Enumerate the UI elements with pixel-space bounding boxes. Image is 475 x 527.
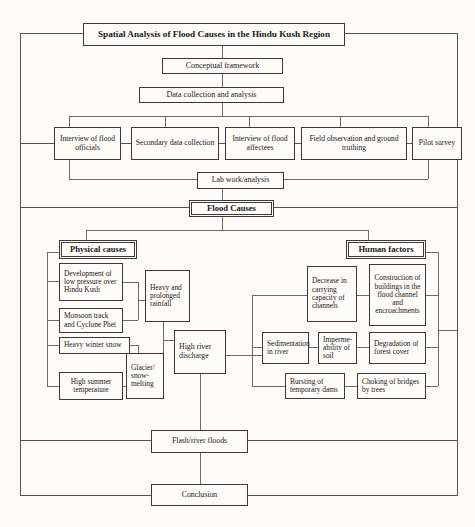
connector-pilot-down [428,160,429,179]
frame-right-border [457,33,458,495]
connector-left-spine-to-sedimentation [252,347,262,348]
connector-monsoon-to-rainfall [123,320,138,321]
connector-human-to-construction [426,295,438,296]
node-impermeability: Imperme- ability of soil [318,332,357,364]
node-high-discharge: High river discharge [174,330,226,374]
connector-data-to-busbar [222,103,223,116]
node-glacier-melting: Glacier/ snow- melting [126,353,164,399]
connector-rainfall-down [163,322,164,340]
connector-left-spine-to-capacity [252,295,307,296]
connector-physical-to-summer-temp [47,386,59,387]
connector-bursting-to-choking [345,386,357,387]
connector-officials-down [69,160,70,179]
connector-rainfall-inlet [138,300,145,301]
node-secondary-data: Secondary data collection [131,127,219,160]
node-pilot-survey: Pilot survey [412,127,462,160]
connector-human-left-spine [252,295,253,386]
node-physical-causes: Physical causes [59,240,137,259]
connector-physical-to-low-pressure [47,281,59,282]
node-lab-work: Lab work/analysis [197,172,284,189]
connector-causes-busbar [86,230,368,231]
connector-human-to-forest [426,347,438,348]
node-title: Spatial Analysis of Flood Causes in the … [83,23,345,46]
node-sedimentation: Sedimentation in river [262,332,309,364]
connector-bus-to-interview-affectees [249,116,250,127]
node-flood-causes: Flood Causes [189,200,274,217]
connector-bus-to-pilot-survey [428,116,429,127]
connector-rainfall-feed-spine [138,282,139,320]
node-decrease-capacity: Decrease in carrying capacity of channel… [307,266,357,322]
node-low-pressure: Development of low pressure over Hindu K… [59,263,123,301]
node-interview-affectees: Interview of flood affectees [225,127,295,160]
connector-bus-to-physical [86,230,87,240]
connector-sedimentation-to-impermeability [309,347,318,348]
connector-bus-to-secondary-data [165,116,166,127]
connector-human-stub-top [426,252,438,253]
connector-bus-to-human [368,230,369,240]
connector-physical-to-monsoon [47,320,59,321]
node-forest-degradation: Degradation of forest cover [369,332,426,364]
connector-physical-spine [47,252,48,386]
node-conceptual-framework: Conceptual framework [162,58,283,74]
connector-pilot-to-lab [284,179,428,180]
node-flash-floods: Flash/river floods [151,430,248,453]
node-field-observation: Field observation and ground truthing [301,127,407,160]
connector-physical-stub-top [47,252,59,253]
node-human-factors: Human factors [346,240,426,259]
frame-left-border [20,33,21,495]
node-choking-bridges: Choking of bridges by trees [357,373,426,399]
connector-bus-to-field-observation [340,116,341,127]
node-interview-officials: Interview of flood officials [54,127,121,160]
node-bursting-dams: Bursting of temporary dams [285,373,345,399]
connector-discharge-into-left-spine [226,355,252,356]
connector-rainfall-to-discharge [163,340,174,341]
connector-left-spine-to-bursting [252,386,285,387]
node-construction-buildings: Construction of buildings in the flood c… [369,264,426,326]
node-summer-temperature: High summer temperature [59,372,123,400]
connector-flood-causes-down [222,216,223,230]
node-data-collection: Data collection and analysis [139,87,284,103]
connector-human-spine [438,252,439,386]
node-conclusion: Conclusion [151,484,248,506]
connector-human-to-choking [426,386,438,387]
connector-impermeability-to-forest [357,347,369,348]
node-monsoon-track: Monsoon track and Cyclone Phet [59,308,123,333]
node-heavy-rainfall: Heavy and prolonged rainfall [145,270,190,322]
connector-low-pressure-to-rainfall [123,282,138,283]
connector-officials-to-lab [69,179,197,180]
node-winter-snow: Heavy winter snow [59,337,130,354]
connector-human-spine-outlet [438,330,457,331]
flowchart-canvas: Spatial Analysis of Flood Causes in the … [0,0,475,527]
connector-framework-to-data [222,74,223,87]
connector-physical-to-winter-snow [47,345,59,346]
connector-title-to-framework [222,46,223,58]
connector-capacity-to-construction [357,295,369,296]
connector-bus-to-interview-officials [69,116,70,127]
